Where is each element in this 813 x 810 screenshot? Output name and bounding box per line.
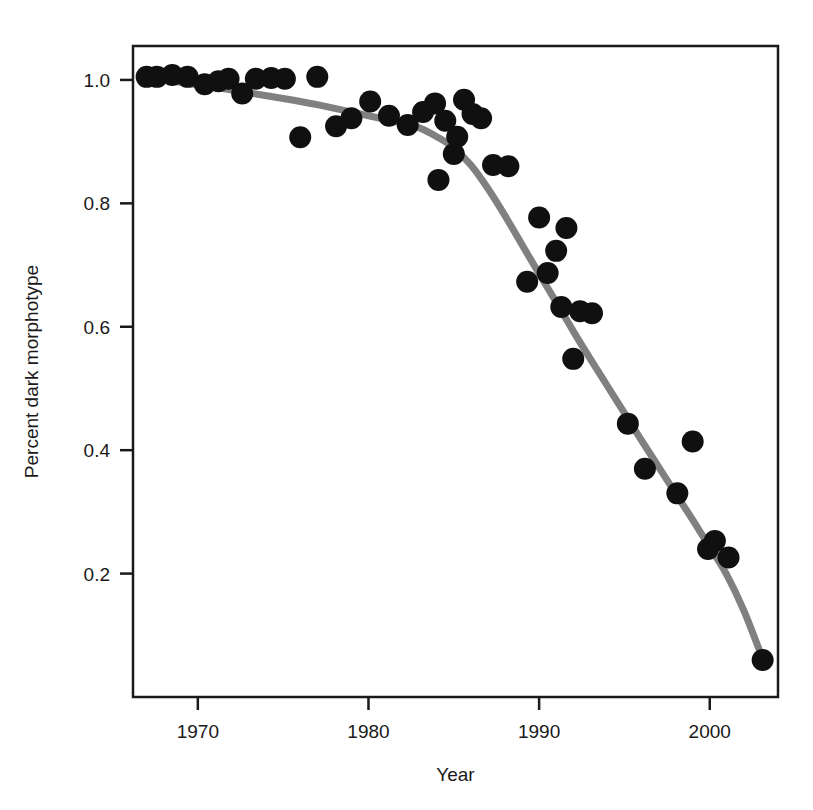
scatter-plot: 19701980199020000.20.40.60.81.0YearPerce…: [0, 0, 813, 810]
data-point: [306, 66, 328, 88]
data-point: [497, 155, 519, 177]
y-tick-label: 1.0: [84, 70, 110, 91]
y-axis-title: Percent dark morphotype: [21, 265, 42, 478]
x-axis-title: Year: [436, 764, 475, 785]
y-tick-label: 0.4: [84, 440, 111, 461]
data-point: [340, 107, 362, 129]
data-point: [427, 169, 449, 191]
x-tick-label: 1990: [518, 721, 560, 742]
chart-figure: 19701980199020000.20.40.60.81.0YearPerce…: [0, 0, 813, 810]
y-tick-label: 0.8: [84, 193, 110, 214]
data-point: [634, 458, 656, 480]
data-point: [752, 649, 774, 671]
data-point: [617, 413, 639, 435]
data-point: [550, 296, 572, 318]
data-point: [682, 431, 704, 453]
data-point: [289, 126, 311, 148]
data-point: [446, 126, 468, 148]
data-point: [581, 302, 603, 324]
x-tick-label: 2000: [689, 721, 731, 742]
data-point: [359, 91, 381, 113]
data-point: [528, 207, 550, 229]
data-point: [562, 348, 584, 370]
y-tick-label: 0.6: [84, 317, 110, 338]
y-tick-label: 0.2: [84, 564, 110, 585]
data-point: [555, 217, 577, 239]
data-point: [516, 271, 538, 293]
data-point: [378, 105, 400, 127]
data-point: [274, 68, 296, 90]
data-point: [470, 107, 492, 129]
data-point: [537, 262, 559, 284]
x-tick-label: 1970: [177, 721, 219, 742]
data-point: [666, 482, 688, 504]
x-tick-label: 1980: [347, 721, 389, 742]
data-point: [718, 547, 740, 569]
data-point: [545, 240, 567, 262]
